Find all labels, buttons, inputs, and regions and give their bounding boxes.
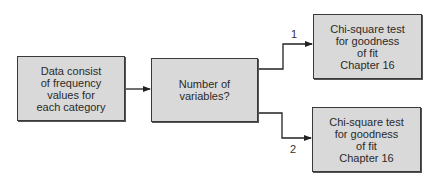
result-1-line-4: Chapter 16 bbox=[340, 59, 394, 71]
result-1-line-1: Chi-square test bbox=[330, 23, 405, 35]
decision-box-line-2: variables? bbox=[179, 90, 229, 102]
result-box-1-chi-square: Chi-square test for goodness of fit Chap… bbox=[313, 14, 422, 79]
start-box-line-1: Data consist bbox=[41, 65, 102, 77]
arrow-decision-to-result-1 bbox=[258, 44, 312, 69]
result-box-2-chi-square: Chi-square test for goodness of fit Chap… bbox=[312, 107, 421, 172]
result-2-line-3: of fit bbox=[356, 140, 377, 152]
result-2-line-4: Chapter 16 bbox=[339, 152, 393, 164]
decision-box-line-1: Number of bbox=[179, 78, 230, 90]
flowchart-canvas: Data consist of frequency values for eac… bbox=[0, 0, 438, 180]
edge-label-2: 2 bbox=[290, 143, 296, 155]
result-1-line-3: of fit bbox=[357, 47, 378, 59]
decision-box-number-of-variables: Number of variables? bbox=[151, 58, 258, 122]
result-2-line-1: Chi-square test bbox=[329, 116, 404, 128]
result-1-line-2: for goodness bbox=[336, 35, 400, 47]
arrow-decision-to-result-2 bbox=[258, 113, 311, 138]
start-box-line-4: each category bbox=[36, 101, 105, 113]
start-box-frequency-data: Data consist of frequency values for eac… bbox=[17, 56, 125, 121]
result-2-line-2: for goodness bbox=[335, 128, 399, 140]
start-box-line-3: values for bbox=[47, 89, 95, 101]
start-box-line-2: of frequency bbox=[41, 77, 102, 89]
edge-label-1: 1 bbox=[291, 28, 297, 40]
